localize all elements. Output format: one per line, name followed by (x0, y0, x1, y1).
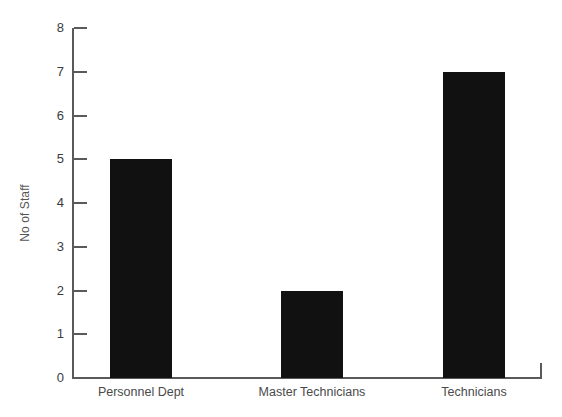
y-axis-tick (74, 246, 87, 248)
y-axis-tick (74, 115, 87, 117)
y-axis-tick-label: 6 (40, 109, 64, 122)
y-axis-tick (74, 290, 87, 292)
x-axis-tick-label: Technicians (364, 386, 562, 399)
y-axis-tick-label: 0 (40, 371, 64, 384)
y-axis-tick-label: 8 (40, 21, 64, 34)
y-axis-tick (74, 202, 87, 204)
y-axis-tick-label: 4 (40, 196, 64, 209)
bar (281, 291, 343, 379)
y-axis-tick (74, 71, 87, 73)
y-axis-tick (74, 333, 87, 335)
y-axis-tick-label: 5 (40, 152, 64, 165)
y-axis-tick-label: 2 (40, 284, 64, 297)
y-axis-tick (74, 377, 87, 379)
y-axis-tick (74, 158, 87, 160)
y-axis-tick-label: 3 (40, 240, 64, 253)
bar (110, 159, 172, 378)
bar (443, 72, 505, 378)
x-axis-end-tick (540, 363, 542, 378)
bar-chart: No of Staff 012345678 Personnel DeptMast… (0, 0, 562, 417)
y-axis-tick (74, 27, 87, 29)
y-axis-tick-label: 7 (40, 65, 64, 78)
y-axis-title: No of Staff (18, 143, 36, 283)
y-axis-tick-label: 1 (40, 327, 64, 340)
